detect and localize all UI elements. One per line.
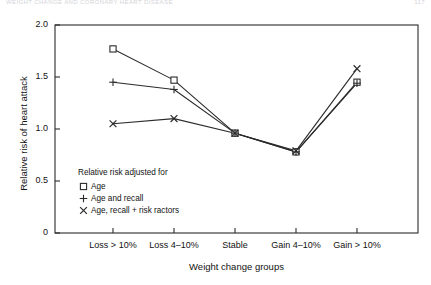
legend-marker-plus-icon bbox=[78, 193, 91, 204]
figure-container: WEIGHT CHANGE AND CORONARY HEART DISEASE… bbox=[0, 0, 431, 285]
legend-entry: Age bbox=[78, 181, 179, 193]
data-point-marker bbox=[354, 65, 361, 72]
data-point-marker bbox=[80, 184, 86, 190]
series-line bbox=[113, 69, 357, 151]
y-axis-tick-label: 1.5 bbox=[14, 71, 48, 81]
data-point-marker bbox=[80, 195, 88, 203]
y-axis-tick-label: 0.5 bbox=[14, 175, 48, 185]
legend-label: Age, recall + risk ractors bbox=[91, 205, 179, 217]
legend-entries: AgeAge and recallAge, recall + risk ract… bbox=[78, 181, 179, 217]
y-axis-tick-label: 1.0 bbox=[14, 123, 48, 133]
data-point-marker bbox=[110, 46, 116, 52]
legend-marker-cross-icon bbox=[78, 205, 91, 216]
x-axis-title: Weight change groups bbox=[55, 261, 418, 272]
chart-legend: Relative risk adjusted for AgeAge and re… bbox=[78, 167, 179, 217]
data-point-marker bbox=[109, 78, 117, 86]
legend-marker-open-square-icon bbox=[78, 181, 91, 192]
data-point-marker bbox=[80, 207, 87, 214]
data-point-marker bbox=[171, 77, 177, 83]
x-axis-tick-label: Loss 4–10% bbox=[149, 240, 199, 250]
legend-title: Relative risk adjusted for bbox=[78, 167, 179, 179]
series-line bbox=[113, 82, 357, 152]
legend-entry: Age, recall + risk ractors bbox=[78, 205, 179, 217]
y-axis-tick-label: 0 bbox=[14, 227, 48, 237]
y-axis-tick-label: 2.0 bbox=[14, 19, 48, 29]
x-axis-tick-label: Loss > 10% bbox=[89, 240, 136, 250]
legend-label: Age bbox=[91, 181, 106, 193]
x-axis-tick-label: Gain > 10% bbox=[333, 240, 380, 250]
legend-label: Age and recall bbox=[91, 193, 143, 205]
x-axis-tick-label: Gain 4–10% bbox=[271, 240, 321, 250]
legend-entry: Age and recall bbox=[78, 193, 179, 205]
x-axis-tick-label: Stable bbox=[222, 240, 248, 250]
data-point-marker bbox=[170, 86, 178, 94]
